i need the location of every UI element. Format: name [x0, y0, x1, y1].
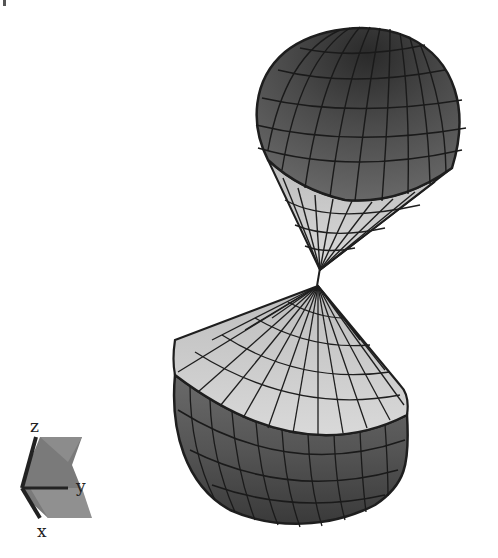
z-axis-label: z	[30, 416, 39, 436]
apex-connector	[317, 268, 320, 286]
y-axis-label: y	[75, 476, 86, 496]
lower-spherical-cone	[174, 286, 408, 527]
3d-scene: z y x	[0, 0, 498, 558]
axes-triad: z y x	[22, 416, 92, 541]
x-axis-label: x	[37, 521, 47, 541]
upper-spherical-cone	[256, 27, 466, 270]
